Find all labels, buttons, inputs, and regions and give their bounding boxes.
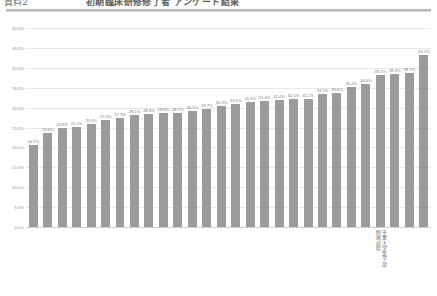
- bar[interactable]: [173, 113, 182, 227]
- bar[interactable]: [332, 93, 341, 227]
- page-title-strip: 資料2 初期臨床研修修了者 アンケート結果: [0, 0, 437, 9]
- bar-value-label: 31.5%: [244, 96, 256, 101]
- bar[interactable]: [246, 102, 255, 227]
- y-axis-tick-label: 10.0%: [0, 185, 24, 190]
- bar[interactable]: [72, 127, 81, 227]
- bar[interactable]: [376, 75, 385, 227]
- page-title: 初期臨床研修修了者 アンケート結果: [86, 0, 239, 8]
- bar[interactable]: [347, 87, 356, 227]
- bar-item[interactable]: [188, 111, 197, 227]
- bar-value-label: 27.3%: [114, 112, 126, 117]
- bar-value-label: 38.1%: [375, 69, 387, 74]
- bar-item[interactable]: [246, 102, 255, 227]
- bar-item[interactable]: [43, 133, 52, 227]
- bar-item[interactable]: [87, 124, 96, 227]
- bar-value-label: 35.2%: [346, 81, 358, 86]
- title-divider-shadow: [6, 11, 431, 12]
- x-axis-category-label: 千葉大学医学部: [382, 230, 387, 267]
- bar-item[interactable]: [101, 120, 110, 227]
- y-axis-tick-label: 5.0%: [0, 205, 24, 210]
- bar-value-label: 28.3%: [143, 108, 155, 113]
- bar-value-label: 28.7%: [172, 107, 184, 112]
- bar-value-label: 43.1%: [418, 49, 430, 54]
- y-axis-tick-label: 40.0%: [0, 66, 24, 71]
- bar-value-label: 23.6%: [42, 127, 54, 132]
- bar-item[interactable]: [347, 87, 356, 227]
- bar[interactable]: [130, 115, 139, 227]
- bar-item[interactable]: [58, 128, 67, 227]
- bar-value-label: 25.1%: [71, 121, 83, 126]
- bar-value-label: 27.0%: [100, 114, 112, 119]
- plot-area: 20.7%23.6%24.8%25.1%25.9%27.0%27.3%28.1%…: [26, 28, 431, 227]
- bar[interactable]: [231, 104, 240, 227]
- bar-value-label: 32.0%: [273, 94, 285, 99]
- bar-item[interactable]: [361, 84, 370, 227]
- bar-item[interactable]: [304, 99, 313, 227]
- bar-item[interactable]: [144, 114, 153, 227]
- bar-item[interactable]: [419, 55, 428, 227]
- bar-value-label: 24.8%: [56, 122, 68, 127]
- bar[interactable]: [390, 74, 399, 227]
- bar-item[interactable]: [217, 106, 226, 227]
- bar[interactable]: [144, 114, 153, 227]
- bar-item[interactable]: [72, 127, 81, 227]
- bar-item[interactable]: [289, 99, 298, 227]
- bar-value-label: 29.7%: [201, 103, 213, 108]
- bar[interactable]: [304, 99, 313, 227]
- y-axis-tick-label: 20.0%: [0, 145, 24, 150]
- bar-value-label: 25.9%: [85, 118, 97, 123]
- bar-item[interactable]: [318, 94, 327, 227]
- bar-item[interactable]: [202, 109, 211, 227]
- bar-value-label: 36.0%: [360, 78, 372, 83]
- y-axis-tick-label: 30.0%: [0, 106, 24, 111]
- bar-item[interactable]: [260, 101, 269, 227]
- bar[interactable]: [101, 120, 110, 227]
- bar-item[interactable]: [116, 118, 125, 227]
- y-axis-ticks: 0.0%5.0%10.0%15.0%20.0%25.0%30.0%35.0%40…: [0, 28, 24, 227]
- bar-value-label: 31.0%: [230, 98, 242, 103]
- bar[interactable]: [318, 94, 327, 227]
- bar[interactable]: [116, 118, 125, 227]
- bar-value-label: 38.7%: [403, 67, 415, 72]
- y-axis-tick-label: 0.0%: [0, 225, 24, 230]
- bar-item[interactable]: [332, 93, 341, 227]
- bar-item[interactable]: [231, 104, 240, 227]
- bar[interactable]: [87, 124, 96, 227]
- bar-item[interactable]: [173, 113, 182, 227]
- bar[interactable]: [58, 128, 67, 227]
- bar-item[interactable]: [275, 100, 284, 227]
- y-axis-tick-label: 25.0%: [0, 126, 24, 131]
- bar[interactable]: [405, 73, 414, 227]
- bar[interactable]: [202, 109, 211, 227]
- bar[interactable]: [188, 111, 197, 227]
- bar[interactable]: [217, 106, 226, 227]
- bar-item[interactable]: [390, 74, 399, 227]
- bar[interactable]: [361, 84, 370, 227]
- bar-value-label: 31.6%: [259, 95, 271, 100]
- bar-item[interactable]: [159, 113, 168, 227]
- bar-value-label: 32.2%: [302, 93, 314, 98]
- bar-item[interactable]: [376, 75, 385, 227]
- gridline: [26, 227, 431, 228]
- y-axis-tick-label: 15.0%: [0, 165, 24, 170]
- bar[interactable]: [289, 99, 298, 227]
- bar-item[interactable]: [130, 115, 139, 227]
- bar[interactable]: [159, 113, 168, 227]
- bar-value-label: 29.1%: [187, 105, 199, 110]
- bar[interactable]: [419, 55, 428, 227]
- bar-item[interactable]: [29, 145, 38, 227]
- bar[interactable]: [29, 145, 38, 227]
- bar[interactable]: [275, 100, 284, 227]
- bar-value-label: 30.3%: [215, 100, 227, 105]
- y-axis-tick-label: 45.0%: [0, 46, 24, 51]
- bar-value-label: 28.6%: [158, 107, 170, 112]
- bar-value-label: 33.5%: [317, 88, 329, 93]
- chart-page: 資料2 初期臨床研修修了者 アンケート結果 0.0%5.0%10.0%15.0%…: [0, 0, 437, 296]
- bar-value-label: 20.7%: [27, 139, 39, 144]
- bar-value-label: 33.6%: [331, 87, 343, 92]
- bar-value-label: 28.1%: [129, 109, 141, 114]
- bar-item[interactable]: [405, 73, 414, 227]
- x-axis-category-label: 附属病院: [376, 230, 381, 251]
- bar[interactable]: [43, 133, 52, 227]
- bar[interactable]: [260, 101, 269, 227]
